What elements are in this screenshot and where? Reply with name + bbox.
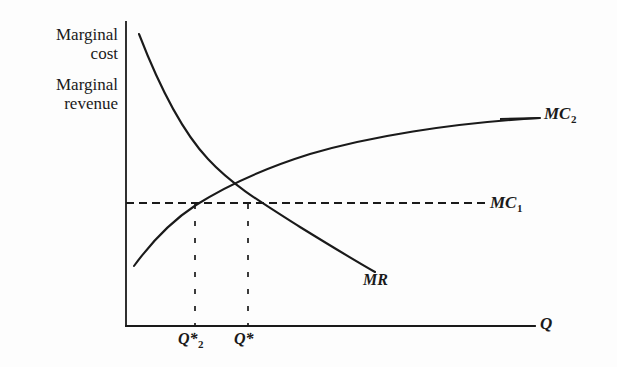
y-axis-title-line-3: Marginal bbox=[56, 75, 118, 94]
y-axis-title-marginal-revenue: Marginal revenue bbox=[56, 75, 118, 113]
mc2-curve-label: MC2 bbox=[544, 104, 576, 126]
mr-curve bbox=[139, 34, 375, 272]
q-star-2-subscript: 2 bbox=[198, 338, 204, 350]
mc2-curve bbox=[134, 118, 540, 266]
mc1-line-label: MC1 bbox=[490, 193, 522, 215]
x-axis-title-q: Q bbox=[540, 314, 552, 333]
mc1-label-subscript: 1 bbox=[517, 202, 523, 214]
y-axis-title-marginal-cost: Marginal cost bbox=[56, 25, 118, 63]
mc2-leader-line bbox=[500, 118, 540, 119]
mc2-label-base: MC bbox=[544, 104, 570, 123]
mc1-label-base: MC bbox=[490, 193, 516, 212]
mc2-label-subscript: 2 bbox=[571, 113, 577, 125]
x-tick-label-q-star: Q* bbox=[234, 330, 254, 348]
y-axis-title-line-4: revenue bbox=[56, 94, 118, 113]
q-star-2-base: Q* bbox=[178, 330, 198, 347]
x-tick-label-q-star-2: Q*2 bbox=[178, 330, 204, 351]
mr-curve-label: MR bbox=[363, 271, 388, 289]
y-axis-title-line-1: Marginal bbox=[56, 25, 118, 44]
y-axis-title-line-2: cost bbox=[56, 44, 118, 63]
mc-mr-chart-figure: Marginal cost Marginal revenue MC2 MC1 M… bbox=[0, 0, 617, 367]
